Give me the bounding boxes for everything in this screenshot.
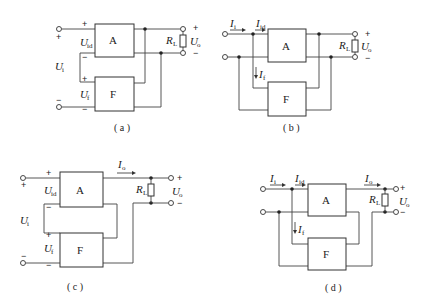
svg-text:−: − [365, 53, 370, 63]
junction-dot [329, 55, 333, 59]
svg-text:L: L [346, 45, 350, 53]
svg-text:o: o [122, 164, 126, 172]
svg-text:F: F [77, 244, 83, 256]
input-terminal-bottom [57, 105, 62, 110]
svg-text:f: f [263, 74, 266, 82]
caption-d: ( d ) [325, 282, 342, 294]
input-terminal-top [223, 32, 228, 37]
junction-dot [290, 187, 294, 191]
input-terminal-bottom [21, 261, 26, 266]
svg-text:f: f [302, 229, 305, 237]
svg-text:−: − [177, 198, 182, 208]
svg-text:+: + [21, 180, 26, 190]
arrow-icon [282, 183, 286, 187]
svg-text:id: id [260, 23, 266, 31]
diagram-c: A F R L U o + − I o + − + U id − U i + U… [20, 158, 183, 293]
svg-text:+: + [177, 173, 182, 183]
svg-text:+: + [82, 19, 87, 29]
svg-text:A: A [76, 184, 84, 196]
output-terminal-top [394, 187, 399, 192]
svg-text:R: R [135, 183, 143, 195]
arrow-icon [254, 75, 258, 79]
svg-text:i: i [62, 66, 64, 74]
svg-text:−: − [21, 251, 26, 261]
input-terminal-bottom [261, 210, 266, 215]
load-resistor [148, 184, 154, 196]
arrow-icon [293, 230, 297, 234]
junction-dot [143, 27, 147, 31]
load-resistor [382, 194, 388, 206]
output-terminal-bottom [181, 51, 186, 56]
svg-text:−: − [56, 95, 61, 105]
svg-text:−: − [82, 52, 87, 62]
svg-text:L: L [143, 189, 147, 197]
output-terminal-top [169, 176, 174, 181]
svg-text:i: i [274, 178, 276, 186]
output-terminal-bottom [169, 201, 174, 206]
svg-text:+: + [365, 29, 370, 39]
svg-text:id: id [51, 190, 57, 198]
svg-text:o: o [406, 201, 410, 209]
svg-text:+: + [46, 168, 51, 178]
arrow-icon [242, 28, 246, 32]
junction-dot [251, 32, 255, 36]
svg-text:−: − [400, 207, 405, 217]
arrow-icon [377, 183, 381, 187]
svg-text:L: L [376, 199, 380, 207]
svg-text:id: id [299, 178, 305, 186]
svg-text:id: id [87, 42, 93, 50]
amplifier-label: A [109, 34, 117, 46]
output-terminal-top [353, 32, 358, 37]
feedback-label: F [110, 88, 116, 100]
svg-text:+: + [193, 23, 198, 33]
input-terminal-bottom [223, 55, 228, 60]
svg-text:i: i [234, 23, 236, 31]
caption-c: ( c ) [67, 281, 83, 293]
svg-text:A: A [282, 40, 290, 52]
diagram-d: A F R L U o + − I i I id I o I f ( d ) [261, 172, 411, 294]
svg-text:f: f [87, 94, 90, 102]
svg-text:−: − [46, 260, 51, 270]
svg-text:A: A [322, 194, 330, 206]
svg-text:+: + [56, 32, 61, 42]
rl-label: R [165, 34, 173, 46]
output-terminal-top [181, 27, 186, 32]
diagram-a: A F R L U o + − + − + U id − U i + U f −… [55, 19, 201, 134]
svg-text:f: f [51, 248, 54, 256]
svg-text:+: + [82, 74, 87, 84]
svg-text:+: + [400, 183, 405, 193]
input-terminal-top [261, 187, 266, 192]
svg-text:F: F [283, 93, 289, 105]
svg-text:R: R [368, 193, 376, 205]
svg-text:o: o [369, 178, 373, 186]
svg-text:−: − [193, 48, 198, 58]
input-terminal-top [57, 27, 62, 32]
diagram-b: A F R L U o + − I i I id I f ( b ) [223, 17, 373, 134]
load-resistor [352, 40, 358, 52]
svg-text:−: − [46, 202, 51, 212]
junction-dot [159, 51, 163, 55]
arrow-icon [132, 171, 136, 175]
svg-text:R: R [338, 39, 346, 51]
caption-a: ( a ) [114, 122, 130, 134]
svg-text:L: L [173, 40, 177, 48]
junction-dot [277, 210, 281, 214]
caption-b: ( b ) [283, 122, 300, 134]
junction-dot [317, 32, 321, 36]
svg-text:i: i [27, 220, 29, 228]
junction-dot [237, 55, 241, 59]
svg-text:−: − [82, 104, 87, 114]
output-terminal-bottom [353, 55, 358, 60]
output-terminal-bottom [394, 210, 399, 215]
load-resistor [180, 35, 186, 47]
svg-text:+: + [46, 230, 51, 240]
feedback-diagrams: A F R L U o + − + − + U id − U i + U f −… [0, 0, 423, 303]
svg-text:F: F [323, 248, 329, 260]
